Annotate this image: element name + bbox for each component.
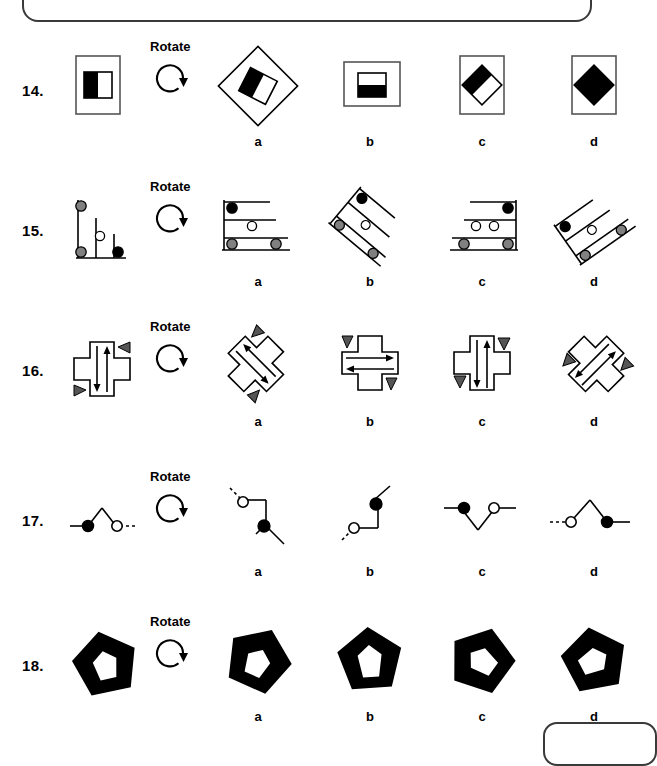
option-14-d[interactable]: d xyxy=(546,44,642,154)
rotate-icon xyxy=(152,488,212,526)
question-number: 15. xyxy=(22,222,44,239)
option-label: d xyxy=(546,134,642,149)
option-label: c xyxy=(434,274,530,289)
prompt-figure-18 xyxy=(68,623,140,709)
prompt-figure-16 xyxy=(68,328,140,414)
option-18-c[interactable]: c xyxy=(434,619,530,729)
question-number: 16. xyxy=(22,362,44,379)
option-figure xyxy=(210,324,306,412)
option-figure xyxy=(546,324,642,412)
rotate-label: Rotate xyxy=(150,470,212,484)
question-number: 14. xyxy=(22,82,44,99)
option-label: d xyxy=(546,564,642,579)
option-figure xyxy=(434,474,530,562)
rotate-instruction-16: Rotate xyxy=(150,320,212,382)
option-16-c[interactable]: c xyxy=(434,324,530,434)
top-rounded-box xyxy=(22,0,592,22)
rotate-instruction-15: Rotate xyxy=(150,180,212,242)
option-15-c[interactable]: c xyxy=(434,184,530,294)
option-15-d[interactable]: d xyxy=(546,184,642,294)
rotate-icon xyxy=(152,338,212,376)
option-figure xyxy=(434,619,530,707)
option-label: a xyxy=(210,274,306,289)
option-14-a[interactable]: a xyxy=(210,44,306,154)
option-figure xyxy=(546,474,642,562)
option-17-b[interactable]: b xyxy=(322,474,418,584)
rotate-label: Rotate xyxy=(150,615,212,629)
rotate-instruction-17: Rotate xyxy=(150,470,212,532)
option-label: b xyxy=(322,709,418,724)
rotate-icon xyxy=(152,58,212,96)
option-figure xyxy=(210,44,306,132)
option-16-a[interactable]: a xyxy=(210,324,306,434)
option-label: c xyxy=(434,564,530,579)
question-number: 18. xyxy=(22,657,44,674)
question-row-17: 17. Rotate xyxy=(0,470,644,590)
option-17-c[interactable]: c xyxy=(434,474,530,584)
option-15-b[interactable]: b xyxy=(322,184,418,294)
option-label: c xyxy=(434,709,530,724)
prompt-figure-14 xyxy=(68,48,140,134)
option-17-d[interactable]: d xyxy=(546,474,642,584)
rotate-icon xyxy=(152,633,212,671)
option-figure xyxy=(322,474,418,562)
option-15-a[interactable]: a xyxy=(210,184,306,294)
option-label: b xyxy=(322,134,418,149)
option-figure xyxy=(546,184,642,272)
question-row-16: 16. Rotate xyxy=(0,320,644,440)
option-18-a[interactable]: a xyxy=(210,619,306,729)
option-14-b[interactable]: b xyxy=(322,44,418,154)
option-label: a xyxy=(210,709,306,724)
option-figure xyxy=(546,44,642,132)
option-16-b[interactable]: b xyxy=(322,324,418,434)
prompt-figure-15 xyxy=(68,188,140,274)
question-row-14: 14. Rotate xyxy=(0,40,644,160)
option-label: c xyxy=(434,414,530,429)
option-label: b xyxy=(322,564,418,579)
question-row-18: 18. Rotate xyxy=(0,615,644,735)
rotate-instruction-14: Rotate xyxy=(150,40,212,102)
option-figure xyxy=(322,619,418,707)
option-figure xyxy=(210,474,306,562)
option-label: d xyxy=(546,709,642,724)
question-number: 17. xyxy=(22,512,44,529)
option-label: b xyxy=(322,274,418,289)
option-label: a xyxy=(210,134,306,149)
option-figure xyxy=(322,184,418,272)
option-figure xyxy=(546,619,642,707)
rotate-icon xyxy=(152,198,212,236)
option-figure xyxy=(434,184,530,272)
option-label: d xyxy=(546,414,642,429)
option-figure xyxy=(434,44,530,132)
option-label: a xyxy=(210,414,306,429)
option-16-d[interactable]: d xyxy=(546,324,642,434)
option-label: c xyxy=(434,134,530,149)
option-label: b xyxy=(322,414,418,429)
option-label: d xyxy=(546,274,642,289)
option-label: a xyxy=(210,564,306,579)
option-figure xyxy=(210,184,306,272)
option-figure xyxy=(322,44,418,132)
option-18-b[interactable]: b xyxy=(322,619,418,729)
rotate-label: Rotate xyxy=(150,40,212,54)
option-figure xyxy=(434,324,530,412)
option-17-a[interactable]: a xyxy=(210,474,306,584)
rotate-instruction-18: Rotate xyxy=(150,615,212,677)
prompt-figure-17 xyxy=(68,478,140,564)
question-row-15: 15. Rotate xyxy=(0,180,644,300)
option-14-c[interactable]: c xyxy=(434,44,530,154)
rotate-label: Rotate xyxy=(150,180,212,194)
option-figure xyxy=(322,324,418,412)
option-figure xyxy=(210,619,306,707)
rotate-label: Rotate xyxy=(150,320,212,334)
option-18-d[interactable]: d xyxy=(546,619,642,729)
